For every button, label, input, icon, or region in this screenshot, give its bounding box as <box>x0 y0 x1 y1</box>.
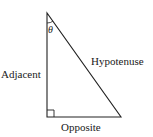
opposite-label: Opposite <box>61 121 101 133</box>
hypotenuse-label: Hypotenuse <box>91 55 144 67</box>
angle-arc <box>47 21 53 23</box>
adjacent-label: Adjacent <box>1 68 41 80</box>
theta-label: θ <box>48 24 53 35</box>
right-triangle-diagram: θ Adjacent Hypotenuse Opposite <box>0 0 153 137</box>
right-angle-marker <box>47 110 54 117</box>
